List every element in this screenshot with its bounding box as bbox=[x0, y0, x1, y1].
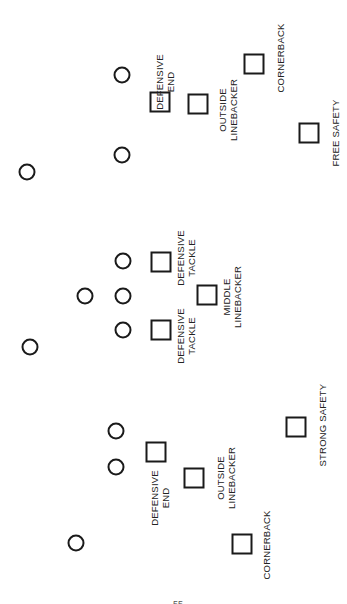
cornerback-marker bbox=[244, 54, 265, 75]
cornerback-label: CORNERBACK bbox=[261, 510, 272, 579]
label-line: LINEBACKER bbox=[226, 447, 237, 509]
offense-player-marker bbox=[115, 253, 132, 270]
label-line: CORNERBACK bbox=[261, 510, 272, 579]
offense-player-marker bbox=[68, 535, 85, 552]
label-line: LINEBACKER bbox=[232, 266, 243, 328]
free-safety-marker bbox=[299, 123, 320, 144]
free-safety-label: FREE SAFETY bbox=[330, 99, 341, 166]
middle-linebacker-label: MIDDLE LINEBACKER bbox=[221, 266, 243, 328]
label-line: OUTSIDE bbox=[215, 447, 226, 509]
label-line: END bbox=[160, 470, 171, 526]
strong-safety-marker bbox=[286, 417, 307, 438]
offense-player-marker bbox=[114, 147, 131, 164]
offense-player-marker bbox=[115, 322, 132, 339]
offense-player-marker bbox=[19, 164, 36, 181]
label-line: CORNERBACK bbox=[275, 23, 286, 92]
label-line: MIDDLE bbox=[221, 266, 232, 328]
page-number: 55 bbox=[173, 600, 183, 604]
cornerback-marker bbox=[232, 534, 253, 555]
label-line: TACKLE bbox=[186, 230, 197, 286]
defensive-tackle-label: DEFENSIVE TACKLE bbox=[175, 230, 197, 286]
outside-linebacker-marker bbox=[184, 468, 205, 489]
cornerback-label: CORNERBACK bbox=[275, 23, 286, 92]
offense-player-marker bbox=[77, 288, 94, 305]
defensive-end-marker bbox=[146, 442, 167, 463]
offense-player-marker bbox=[108, 459, 125, 476]
label-line: LINEBACKER bbox=[228, 79, 239, 141]
offense-player-marker bbox=[114, 67, 131, 84]
outside-linebacker-label: OUTSIDE LINEBACKER bbox=[215, 447, 237, 509]
offense-player-marker bbox=[22, 339, 39, 356]
label-line: TACKLE bbox=[186, 308, 197, 364]
strong-safety-label: STRONG SAFETY bbox=[317, 384, 328, 467]
defensive-tackle-marker bbox=[151, 320, 172, 341]
label-line: DEFENSIVE bbox=[149, 470, 160, 526]
defensive-formation-diagram: DEFENSIVE END OUTSIDE LINEBACKER CORNERB… bbox=[0, 0, 347, 604]
offense-player-marker bbox=[115, 288, 132, 305]
label-line: DEFENSIVE bbox=[175, 230, 186, 286]
outside-linebacker-label: OUTSIDE LINEBACKER bbox=[217, 79, 239, 141]
label-line: OUTSIDE bbox=[217, 79, 228, 141]
label-line: DEFENSIVE bbox=[175, 308, 186, 364]
defensive-tackle-label: DEFENSIVE TACKLE bbox=[175, 308, 197, 364]
middle-linebacker-marker bbox=[197, 285, 218, 306]
defensive-end-label: DEFENSIVE END bbox=[149, 470, 171, 526]
label-line: DEFENSIVE bbox=[154, 54, 165, 110]
defensive-end-label: DEFENSIVE END bbox=[154, 54, 176, 110]
label-line: FREE SAFETY bbox=[330, 99, 341, 166]
label-line: END bbox=[165, 54, 176, 110]
offense-player-marker bbox=[108, 423, 125, 440]
outside-linebacker-marker bbox=[188, 94, 209, 115]
defensive-tackle-marker bbox=[151, 252, 172, 273]
label-line: STRONG SAFETY bbox=[317, 384, 328, 467]
